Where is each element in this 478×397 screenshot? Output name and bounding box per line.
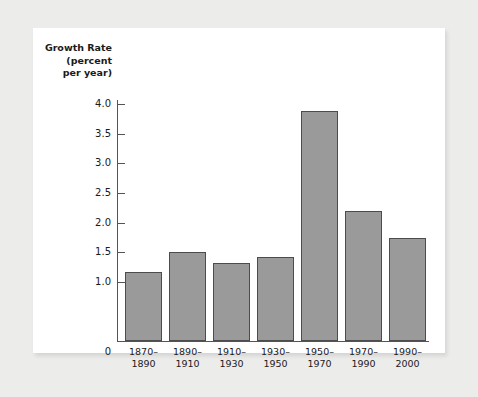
y-tick-label: 3.5 bbox=[71, 129, 111, 139]
y-tick-mark bbox=[118, 252, 125, 253]
y-tick-label: 2.5 bbox=[71, 188, 111, 198]
bar bbox=[389, 238, 426, 341]
y-axis-label: Growth Rate (percent per year) bbox=[20, 42, 112, 80]
chart-figure: Growth Rate (percent per year) 4.03.53.0… bbox=[0, 0, 478, 397]
bar bbox=[345, 211, 382, 341]
y-tick-label: 4.0 bbox=[71, 99, 111, 109]
y-tick-label: 1.0 bbox=[71, 277, 111, 287]
y-tick-mark bbox=[118, 163, 125, 164]
x-tick-label: 1990– 2000 bbox=[382, 346, 434, 370]
x-axis-line bbox=[117, 341, 429, 342]
y-tick-label: 3.0 bbox=[71, 158, 111, 168]
y-tick-label: 1.5 bbox=[71, 247, 111, 257]
bar bbox=[257, 257, 294, 341]
y-tick-mark bbox=[118, 104, 125, 105]
bar bbox=[169, 252, 206, 341]
y-tick-mark bbox=[118, 223, 125, 224]
y-tick-mark bbox=[118, 134, 125, 135]
y-axis-zero-label: 0 bbox=[71, 346, 111, 357]
bar bbox=[213, 263, 250, 341]
y-tick-label: 2.0 bbox=[71, 218, 111, 228]
y-tick-mark bbox=[118, 193, 125, 194]
y-tick-mark bbox=[118, 282, 125, 283]
bar bbox=[125, 272, 162, 341]
y-axis-line bbox=[117, 100, 118, 342]
bar bbox=[301, 111, 338, 341]
